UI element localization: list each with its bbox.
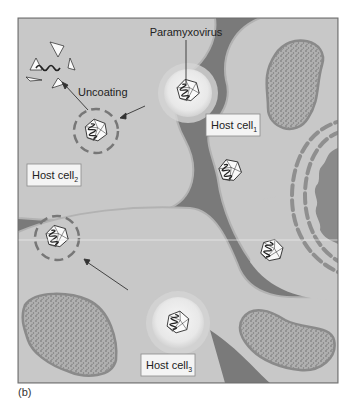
svg-text:Host cell3: Host cell3 xyxy=(146,359,192,373)
label-host-cell-3: Host cell3 xyxy=(141,354,195,376)
paramyxovirus-infection-diagram: Paramyxovirus Uncoating Host cell1 Host … xyxy=(0,0,356,405)
svg-text:Host cell1: Host cell1 xyxy=(211,119,257,133)
panel-label: (b) xyxy=(18,386,31,398)
label-host-cell-1: Host cell1 xyxy=(206,114,260,136)
label-uncoating: Uncoating xyxy=(78,86,128,98)
label-host-cell-2: Host cell2 xyxy=(27,164,81,186)
label-paramyxovirus: Paramyxovirus xyxy=(150,26,223,38)
svg-text:Host cell2: Host cell2 xyxy=(32,169,78,183)
